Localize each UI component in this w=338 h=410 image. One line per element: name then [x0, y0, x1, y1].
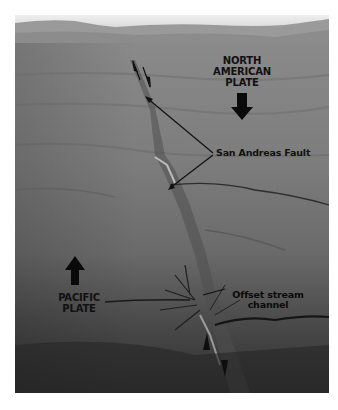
label-line: NORTH	[212, 55, 272, 66]
label-text: San Andreas Fault	[216, 147, 310, 158]
offset-stream-channel-label: Offset stream channel	[228, 290, 308, 310]
label-line: PLATE	[54, 303, 104, 314]
label-line: channel	[228, 300, 308, 310]
fault-photograph	[15, 15, 329, 393]
label-line: PACIFIC	[54, 292, 104, 303]
pacific-plate-arrow-icon	[65, 256, 85, 285]
fault-leader-lines	[15, 15, 329, 393]
pacific-plate-label: PACIFIC PLATE	[54, 292, 104, 314]
label-line: AMERICAN	[212, 66, 272, 77]
north-american-plate-arrow-icon	[231, 93, 253, 120]
label-line: PLATE	[212, 77, 272, 88]
north-american-plate-label: NORTH AMERICAN PLATE	[212, 55, 272, 88]
san-andreas-fault-label: San Andreas Fault	[216, 148, 326, 158]
